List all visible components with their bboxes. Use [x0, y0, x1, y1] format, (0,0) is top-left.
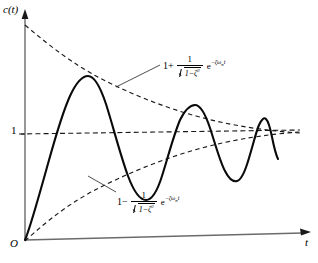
upper-formula-radicand-exponent: 2 [197, 68, 200, 73]
lower-formula-radicand-exponent: 2 [151, 204, 154, 209]
lower-formula-fraction: 1 1−ζ2 [131, 191, 157, 214]
x-axis-label: t [305, 237, 308, 248]
y-axis-arrowhead [22, 9, 29, 19]
upper-formula-denominator: 1−ζ2 [177, 66, 203, 78]
upper-formula-radicand: 1−ζ [185, 69, 198, 78]
lower-annotation-leader [88, 176, 116, 192]
lower-formula-denominator: 1−ζ2 [131, 202, 157, 214]
upper-formula-lead: 1+ [163, 61, 174, 71]
plot-canvas [0, 0, 318, 263]
upper-formula-exp-superscript: −ζωnt [211, 59, 226, 67]
lower-envelope-curve [25, 132, 300, 241]
lower-formula-exp-superscript: −ζωnt [165, 195, 180, 203]
lower-formula-exponential: e −ζωnt [161, 198, 180, 207]
upper-formula-numerator: 1 [177, 55, 203, 66]
upper-envelope-curve [25, 25, 300, 133]
lower-formula-radicand-group: 1−ζ2 [138, 203, 155, 214]
upper-envelope-formula: 1+ 1 1−ζ2 e −ζωnt [163, 55, 225, 78]
lower-envelope-formula: 1− 1 1−ζ2 e −ζωnt [117, 191, 179, 214]
step-response-curve [25, 76, 278, 240]
lower-formula-exp-sup-main: −ζω [165, 195, 175, 201]
sqrt-icon: 1−ζ2 [133, 203, 155, 214]
lower-formula-lead: 1− [117, 197, 128, 207]
upper-formula-exponential: e −ζωnt [207, 62, 226, 71]
lower-formula-numerator: 1 [131, 191, 157, 202]
figure-root: c(t) t O 1 1+ 1 1−ζ2 e −ζωnt 1− 1 [0, 0, 318, 263]
x-axis-arrowhead [300, 229, 311, 236]
sqrt-icon: 1−ζ2 [179, 67, 201, 78]
upper-annotation-leader [116, 65, 160, 87]
x-axis [25, 233, 303, 240]
lower-formula-exp-sup-tail: t [178, 195, 180, 201]
lower-formula-radicand: 1−ζ [139, 205, 152, 214]
upper-formula-exp-sup-tail: t [224, 59, 226, 65]
upper-formula-radicand-group: 1−ζ2 [184, 67, 201, 78]
origin-label: O [10, 238, 18, 249]
y-axis-label: c(t) [3, 4, 18, 15]
upper-formula-fraction: 1 1−ζ2 [177, 55, 203, 78]
y-tick-label-one: 1 [11, 125, 17, 136]
upper-formula-exp-sup-main: −ζω [211, 59, 221, 65]
